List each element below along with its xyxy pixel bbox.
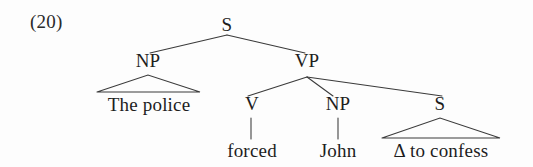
- branch-s-to-np: [150, 35, 227, 53]
- node-s-embedded: S: [435, 94, 446, 113]
- terminal-forced: forced: [227, 141, 277, 160]
- node-s-root: S: [222, 15, 233, 34]
- node-np-object: NP: [326, 94, 351, 113]
- triangle-s-embedded: [382, 118, 500, 138]
- node-v: V: [245, 94, 259, 113]
- figure-canvas: (20) S NP VP V NP S The police forced Jo…: [0, 0, 533, 167]
- node-vp: VP: [295, 51, 320, 70]
- node-np-subject: NP: [136, 51, 161, 70]
- terminal-the-police: The police: [108, 95, 191, 114]
- terminal-delta-to-confess: Δ to confess: [394, 141, 489, 160]
- terminal-john: John: [320, 141, 357, 160]
- triangle-np-subject: [97, 75, 200, 92]
- branch-s-to-vp: [227, 35, 305, 53]
